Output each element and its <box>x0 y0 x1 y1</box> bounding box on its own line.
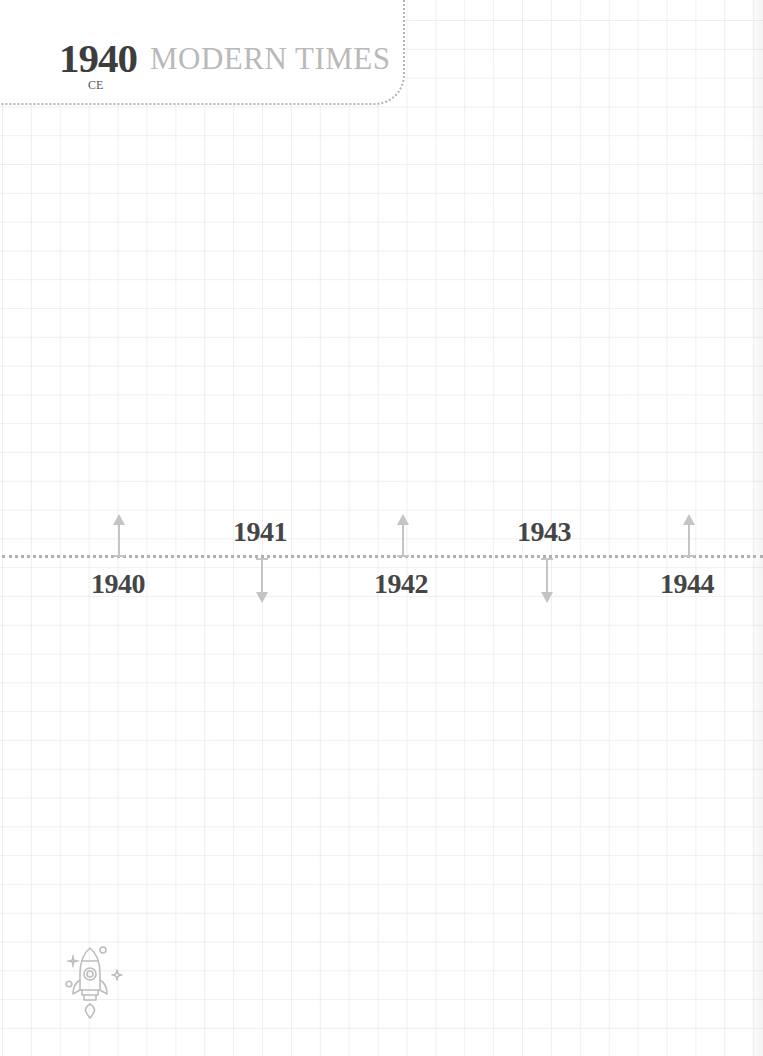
timeline-year-1943: 1943 <box>494 516 594 548</box>
timeline-year-1940: 1940 <box>68 568 168 600</box>
arrow-base-cap <box>541 558 553 560</box>
arrow-up-icon <box>402 524 404 557</box>
arrow-up-icon <box>688 524 690 557</box>
arrow-head <box>113 514 125 525</box>
timeline-year-1944: 1944 <box>637 568 737 600</box>
arrow-down-icon <box>546 558 548 593</box>
timeline-year-1942: 1942 <box>351 568 451 600</box>
era-title: MODERN TIMES <box>150 39 391 79</box>
arrow-head <box>397 514 409 525</box>
arrow-base-cap <box>683 555 695 557</box>
arrow-base-cap <box>113 555 125 557</box>
arrow-head <box>541 592 553 603</box>
rocket-icon <box>62 942 126 1024</box>
era-year: 1940 <box>59 34 137 82</box>
arrow-base-cap <box>397 555 409 557</box>
arrow-base-cap <box>256 558 268 560</box>
era-suffix: CE <box>88 78 103 92</box>
arrow-up-icon <box>118 524 120 557</box>
page-edge-shadow <box>751 0 763 1056</box>
arrow-head <box>683 514 695 525</box>
arrow-head <box>256 592 268 603</box>
timeline-year-1941: 1941 <box>210 516 310 548</box>
arrow-down-icon <box>261 558 263 593</box>
